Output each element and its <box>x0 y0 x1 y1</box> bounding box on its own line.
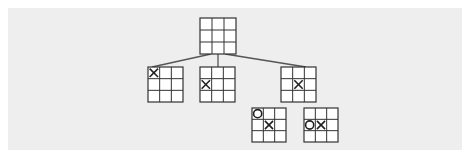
board-root <box>200 18 236 54</box>
board-child-2 <box>200 67 235 102</box>
board-grandchild-1 <box>252 108 286 142</box>
tree-edges <box>152 54 306 67</box>
edge-root-to-child-1 <box>152 54 211 67</box>
board-child-1 <box>148 67 183 102</box>
board-grandchild-2 <box>304 108 338 142</box>
board-child-3 <box>281 67 316 102</box>
tree-nodes <box>148 18 338 142</box>
edge-root-to-child-3 <box>225 54 306 67</box>
board-frame <box>200 18 236 54</box>
game-tree-diagram <box>0 0 470 157</box>
